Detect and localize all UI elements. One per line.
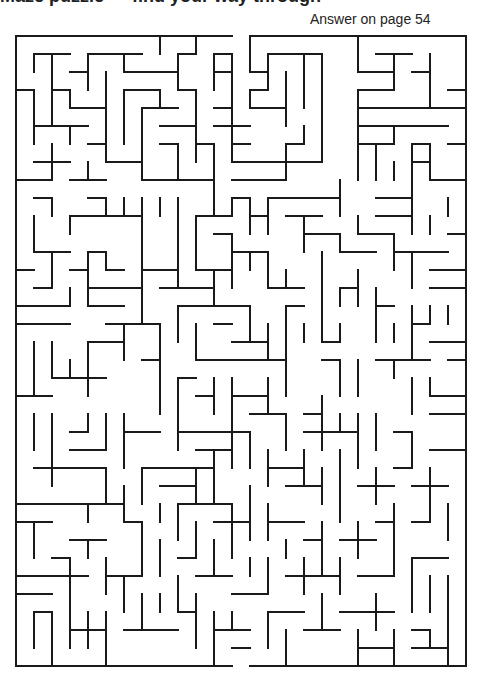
maze-puzzle	[0, 0, 484, 682]
maze-walls	[16, 36, 466, 666]
maze-exit[interactable]	[232, 662, 250, 676]
maze-entrance[interactable]	[232, 26, 250, 40]
